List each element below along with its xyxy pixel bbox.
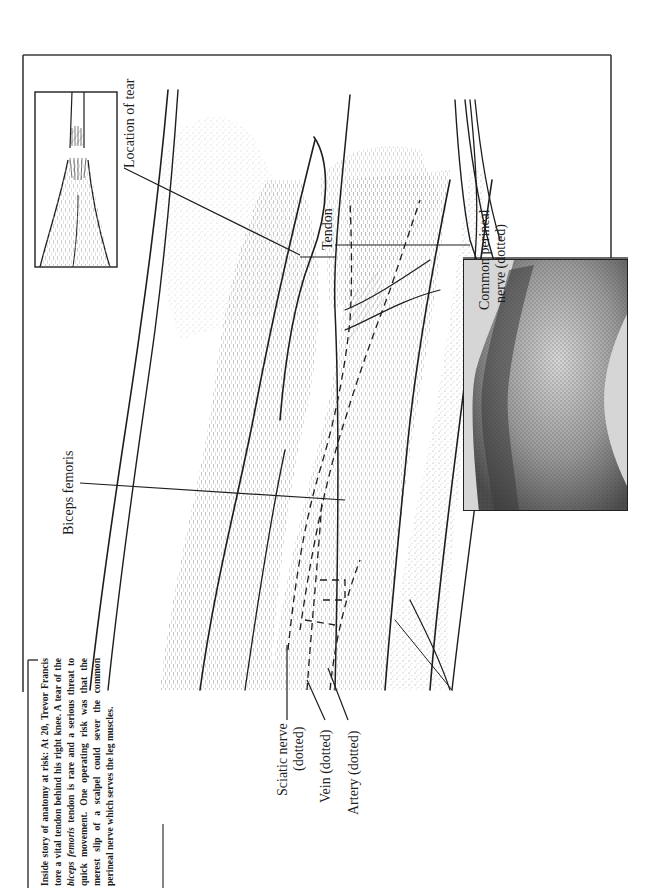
label-location-of-tear: Location of tear	[122, 79, 138, 168]
label-common-perineal-2: nerve (dotted)	[493, 224, 509, 303]
caption: Inside story of anatomy at risk: At 20, …	[38, 658, 117, 886]
caption-lead: Inside story of anatomy at risk: At 20, …	[39, 658, 63, 886]
label-tendon: Tendon	[320, 208, 336, 250]
inset-box	[35, 92, 117, 267]
caption-italic-term: biceps femoris	[65, 827, 76, 886]
label-biceps-femoris: Biceps femoris	[61, 451, 77, 535]
label-artery: Artery (dotted)	[346, 731, 362, 815]
label-vein: Vein (dotted)	[318, 730, 334, 803]
magazine-page: Inside story of anatomy at risk: At 20, …	[0, 0, 663, 891]
label-common-perineal-1: Common perineal	[477, 209, 493, 310]
label-sciatic-nerve-1: Sciatic nerve	[275, 723, 291, 796]
label-sciatic-nerve-2: (dotted)	[291, 727, 307, 771]
